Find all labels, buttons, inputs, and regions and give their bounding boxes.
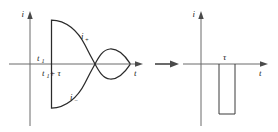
equivalent-pulse-plot: i t τ <box>183 9 268 126</box>
right-horizontal-axis-label: t <box>259 68 262 78</box>
marker-t1-plus-tau-tau: τ <box>58 68 62 78</box>
curve-label-i-minus-base: i <box>70 92 73 102</box>
pulse-width-label: τ <box>223 52 227 62</box>
rectangular-pulse <box>219 64 235 114</box>
marker-t1-plus-tau-operator: + <box>50 68 55 78</box>
curve-label-i-minus-subscript: − <box>74 97 78 104</box>
marker-t1-subscript: 1 <box>42 57 45 64</box>
current-waveform-plot: i t t 1 t 1 + τ i + <box>9 9 143 126</box>
marker-t1-base: t <box>37 53 40 63</box>
transform-arrow <box>155 60 179 67</box>
curve-label-i-plus: i + <box>81 31 89 43</box>
marker-t1-plus-tau-base: t <box>42 68 45 78</box>
curve-label-i-plus-subscript: + <box>85 36 89 43</box>
right-vertical-axis-label: i <box>193 9 196 19</box>
right-vertical-axis-arrowhead <box>198 11 203 19</box>
curve-i-minus <box>52 49 131 108</box>
left-vertical-axis-label: i <box>22 9 25 19</box>
left-vertical-axis-arrowhead <box>27 11 32 19</box>
transform-arrow-head <box>170 60 179 67</box>
curve-label-i-minus: i − <box>70 92 78 104</box>
curve-label-i-plus-base: i <box>81 31 84 41</box>
left-horizontal-axis-label: t <box>134 68 137 78</box>
waveform-figure: i t t 1 t 1 + τ i + <box>0 0 278 132</box>
marker-t1: t 1 <box>37 53 45 64</box>
left-horizontal-axis-arrowhead <box>135 61 143 66</box>
figure-root: i t t 1 t 1 + τ i + <box>0 0 278 132</box>
right-horizontal-axis-arrowhead <box>260 61 268 66</box>
curve-i-plus <box>52 20 131 79</box>
